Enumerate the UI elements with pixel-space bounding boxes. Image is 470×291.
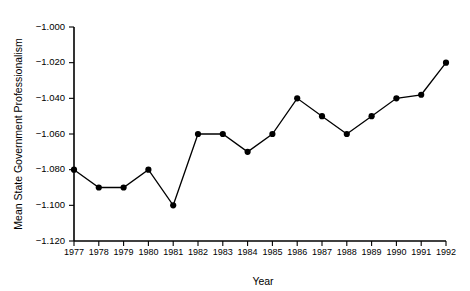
y-axis-tick-label: −1.040	[36, 92, 65, 103]
x-axis-tick-label: 1985	[262, 247, 282, 257]
x-axis-tick-label: 1982	[188, 247, 208, 257]
data-point-marker	[344, 131, 350, 137]
y-axis-tick-label: −1.100	[36, 199, 65, 210]
data-point-marker	[294, 95, 300, 101]
x-axis-tick-label: 1979	[114, 247, 134, 257]
data-point-marker	[245, 149, 251, 155]
x-axis-tick-label: 1992	[436, 247, 456, 257]
y-axis-tick-label: −1.080	[36, 163, 65, 174]
data-point-marker	[443, 60, 449, 66]
data-point-marker	[220, 131, 226, 137]
x-axis-tick-label: 1980	[138, 247, 158, 257]
data-point-marker	[71, 167, 77, 173]
x-axis-tick-label: 1983	[213, 247, 233, 257]
data-point-marker	[319, 113, 325, 119]
x-axis-tick-label: 1977	[64, 247, 84, 257]
y-axis-tick-label: −1.060	[36, 128, 65, 139]
y-axis-tick-label: −1.020	[36, 56, 65, 67]
data-point-marker	[170, 202, 176, 208]
line-chart: −1.000−1.020−1.040−1.060−1.080−1.100−1.1…	[0, 0, 470, 291]
series-line	[74, 63, 446, 206]
x-axis-tick-label: 1978	[89, 247, 109, 257]
x-axis-tick-label: 1989	[362, 247, 382, 257]
data-point-marker	[369, 113, 375, 119]
data-series	[71, 60, 449, 209]
chart-container: −1.000−1.020−1.040−1.060−1.080−1.100−1.1…	[0, 0, 470, 291]
y-axis-title: Mean State Government Professionalism	[12, 38, 24, 230]
data-point-marker	[121, 184, 127, 190]
x-axis-title: Year	[252, 275, 274, 287]
x-axis-tick-label: 1984	[238, 247, 258, 257]
x-axis-tick-label: 1990	[386, 247, 406, 257]
x-axis-tick-label: 1981	[163, 247, 183, 257]
x-axis-tick-label: 1986	[287, 247, 307, 257]
data-point-marker	[195, 131, 201, 137]
data-point-marker	[96, 184, 102, 190]
data-point-marker	[269, 131, 275, 137]
x-axis-tick-label: 1987	[312, 247, 332, 257]
x-axis-tick-label: 1991	[411, 247, 431, 257]
y-axis: −1.000−1.020−1.040−1.060−1.080−1.100−1.1…	[36, 21, 74, 246]
data-point-marker	[418, 92, 424, 98]
x-axis: 1977197819791980198119821983198419851986…	[64, 241, 456, 257]
y-axis-tick-label: −1.120	[36, 235, 65, 246]
x-axis-tick-label: 1988	[337, 247, 357, 257]
data-point-marker	[145, 167, 151, 173]
data-point-marker	[393, 95, 399, 101]
y-axis-tick-label: −1.000	[36, 21, 65, 32]
